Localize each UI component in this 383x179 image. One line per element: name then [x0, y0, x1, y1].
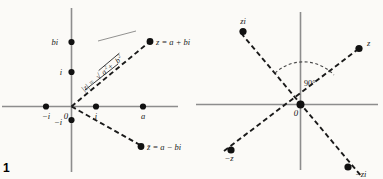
- left-ray-to-z: [72, 43, 149, 107]
- label-i-imag: i: [60, 67, 63, 77]
- label-origin-left: 0: [64, 111, 69, 121]
- label-negative-i-imag: −i: [54, 117, 63, 127]
- label-point-zi: zi: [239, 16, 246, 26]
- label-modulus-prefix: |z| =: [80, 77, 97, 93]
- label-modulus-plus: +: [106, 61, 116, 71]
- label-bi: bi: [51, 37, 58, 47]
- label-right-angle: 90°: [304, 79, 315, 88]
- label-origin-right: 0: [294, 108, 299, 118]
- modulus-underline: [98, 31, 136, 41]
- label-point-z-right: z: [366, 38, 371, 48]
- left-point-z: [147, 38, 154, 45]
- left-point-negative-i: [68, 117, 74, 123]
- right-diagram: zi z −z −zi 90° 0: [196, 12, 378, 179]
- label-i-real: i: [95, 111, 98, 121]
- label-point-z: z = a + bi: [155, 37, 191, 47]
- right-point-z: [355, 45, 362, 52]
- left-point-negative-i-real: [43, 103, 49, 109]
- label-point-z-conjugate: z̄ = a − bi: [146, 142, 182, 152]
- label-point-negative-z: −z: [224, 153, 234, 163]
- right-ray-negative-z-to-z: [224, 47, 361, 151]
- figure-page: bi i −i −i 0 i a z = a + bi z̄ = a − bi …: [0, 0, 383, 179]
- left-ray-to-z-conjugate: [72, 107, 141, 146]
- label-point-negative-zi: −zi: [355, 169, 367, 179]
- right-point-negative-zi: [344, 163, 351, 170]
- label-a: a: [141, 111, 145, 121]
- figure-number: 1: [3, 161, 10, 175]
- left-point-bi: [68, 39, 74, 45]
- label-negative-i-real: −i: [42, 111, 51, 121]
- modulus-label-group: |z| = √ a 2 + b 2: [79, 52, 126, 93]
- complex-plane-figure: bi i −i −i 0 i a z = a + bi z̄ = a − bi …: [0, 0, 383, 179]
- right-point-zi: [239, 28, 246, 35]
- left-point-one: [93, 103, 99, 109]
- left-point-z-conjugate: [138, 143, 145, 150]
- left-point-a: [140, 103, 146, 109]
- left-point-i: [68, 69, 74, 75]
- left-diagram: bi i −i −i 0 i a z = a + bi z̄ = a − bi …: [2, 8, 191, 172]
